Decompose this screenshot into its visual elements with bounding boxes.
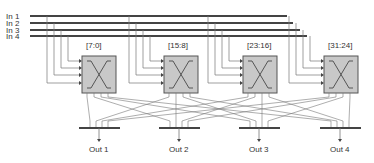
- crossbar-diagram: In 1In 2In 3In 4 [7:0][15:8][23:16][31:2…: [0, 0, 374, 163]
- output-wire: [87, 93, 90, 128]
- down-arrow-icon: [97, 139, 101, 142]
- input-drop-wire: [47, 16, 80, 83]
- output-wire: [182, 93, 255, 128]
- output-ports: Out 1Out 2Out 3Out 4: [79, 128, 361, 154]
- crossbar-label: [7:0]: [86, 41, 102, 50]
- down-arrow-icon: [257, 139, 261, 142]
- output-label: Out 2: [169, 145, 189, 154]
- crossbar-label: [31:24]: [328, 41, 352, 50]
- input-drop-wire: [289, 16, 322, 83]
- crossbar-label: [23:16]: [247, 41, 271, 50]
- output-wire: [94, 93, 170, 128]
- input-drop-wire: [129, 16, 162, 83]
- crossbar-switches: [7:0][15:8][23:16][31:24]: [82, 41, 358, 93]
- input-label: In 4: [6, 32, 20, 41]
- input-drop-wire: [229, 36, 241, 61]
- output-label: Out 3: [249, 145, 269, 154]
- output-label: Out 4: [330, 145, 350, 154]
- output-wire: [183, 93, 256, 128]
- input-drop-wire: [68, 36, 80, 61]
- diagram-canvas: In 1In 2In 3In 4 [7:0][15:8][23:16][31:2…: [0, 0, 374, 163]
- input-drop-wire: [310, 36, 322, 61]
- down-arrow-icon: [177, 139, 181, 142]
- output-label: Out 1: [89, 145, 109, 154]
- output-wire: [108, 93, 331, 128]
- down-arrow-icon: [338, 139, 342, 142]
- output-wire: [349, 93, 350, 128]
- input-bus: In 1In 2In 3In 4: [6, 12, 307, 41]
- output-wire: [101, 93, 250, 128]
- output-wire: [108, 93, 329, 128]
- output-wire: [268, 93, 343, 128]
- input-drop-wire: [150, 36, 162, 61]
- output-wires: [87, 93, 350, 128]
- input-drop-wire: [208, 16, 241, 83]
- output-wire: [269, 93, 343, 128]
- output-wire: [102, 93, 248, 128]
- crossbar-label: [15:8]: [168, 41, 188, 50]
